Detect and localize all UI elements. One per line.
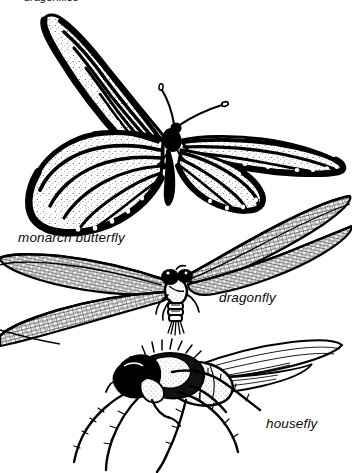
label-monarch-butterfly: monarch butterfly bbox=[18, 230, 125, 245]
insect-illustration-figure: dragonflies bbox=[0, 0, 352, 473]
label-housefly: housefly bbox=[266, 416, 317, 431]
housefly-illustration bbox=[0, 330, 342, 472]
label-dragonfly: dragonfly bbox=[219, 290, 276, 305]
monarch-butterfly-illustration bbox=[29, 15, 343, 233]
